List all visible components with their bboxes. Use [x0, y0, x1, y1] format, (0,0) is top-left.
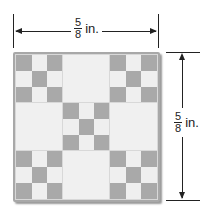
plain-block [63, 55, 110, 103]
light-square [16, 167, 32, 183]
light-square [32, 183, 48, 199]
dark-square [16, 55, 32, 71]
light-square [126, 151, 142, 167]
dark-square [94, 103, 110, 119]
light-square [79, 135, 95, 151]
dark-square [32, 167, 48, 183]
light-square [126, 87, 142, 103]
plain-block [110, 103, 157, 151]
dark-square [126, 71, 142, 87]
dark-square [63, 135, 79, 151]
width-unit: in. [85, 21, 99, 36]
dark-square [141, 55, 157, 71]
dark-square [47, 55, 63, 71]
light-square [32, 87, 48, 103]
dark-square [126, 167, 142, 183]
width-fraction: 5 8 [74, 17, 82, 40]
nine-patch-block [110, 151, 157, 199]
height-label: 5 8 in. [174, 108, 199, 137]
dark-square [141, 183, 157, 199]
dark-square [32, 71, 48, 87]
dark-square [16, 183, 32, 199]
dark-square [16, 87, 32, 103]
nine-patch-block [63, 103, 110, 151]
light-square [110, 167, 126, 183]
dark-square [16, 151, 32, 167]
plain-block [16, 103, 63, 151]
dark-square [94, 135, 110, 151]
arrow-down-icon [179, 192, 185, 199]
arrow-left-icon [15, 28, 22, 34]
height-unit: in. [185, 115, 199, 130]
light-square [63, 119, 79, 135]
width-left-tick [13, 14, 14, 48]
dark-square [110, 183, 126, 199]
dark-square [47, 183, 63, 199]
arrow-right-icon [150, 28, 157, 34]
height-bottom-tick [166, 200, 200, 201]
width-right-tick [158, 14, 159, 48]
light-square [141, 167, 157, 183]
height-fraction: 5 8 [174, 111, 182, 134]
arrow-up-icon [179, 53, 185, 60]
nine-patch-block [16, 55, 63, 103]
light-square [16, 71, 32, 87]
light-square [126, 183, 142, 199]
dark-square [63, 103, 79, 119]
light-square [110, 71, 126, 87]
plain-block [63, 151, 110, 199]
dark-square [47, 87, 63, 103]
dark-square [79, 119, 95, 135]
nine-patch-block [16, 151, 63, 199]
light-square [94, 119, 110, 135]
light-square [32, 55, 48, 71]
dark-square [47, 151, 63, 167]
dark-square [110, 151, 126, 167]
light-square [32, 151, 48, 167]
dark-square [141, 87, 157, 103]
light-square [79, 103, 95, 119]
width-label: 5 8 in. [71, 17, 102, 40]
dark-square [110, 55, 126, 71]
dark-square [141, 151, 157, 167]
light-square [47, 71, 63, 87]
dark-square [110, 87, 126, 103]
light-square [141, 71, 157, 87]
quilt-tile [13, 52, 160, 202]
nine-patch-block [110, 55, 157, 103]
light-square [47, 167, 63, 183]
light-square [126, 55, 142, 71]
